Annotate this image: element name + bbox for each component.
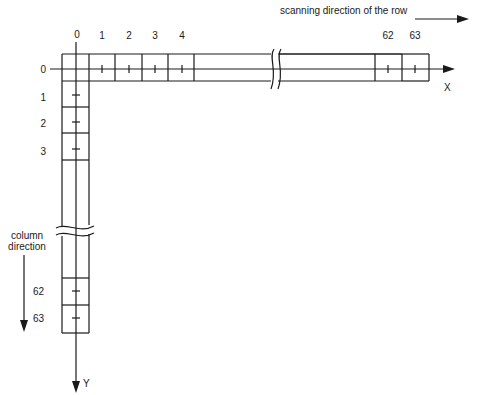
row-label-2: 2 [126,30,132,41]
column-label-62: 62 [33,286,44,297]
column-label-1: 1 [40,92,46,103]
column-direction-label-line1: column [11,230,43,241]
x-axis-label: X [444,82,451,93]
row-strip-right [278,54,429,81]
row-label-62: 62 [382,30,393,41]
y-axis-label: Y [83,378,90,389]
origin-label-left: 0 [40,64,46,75]
row-label-1: 1 [99,30,105,41]
row-label-63: 63 [409,30,420,41]
pixel-grid-diagram [0,0,480,395]
column-label-3: 3 [40,146,46,157]
x-axis-arrowhead-icon [443,65,455,73]
row-label-3: 3 [152,30,158,41]
column-direction-arrowhead-icon [20,320,28,332]
row-label-4: 4 [179,30,185,41]
row-strip-left [62,54,271,81]
y-axis-arrowhead-icon [72,381,80,393]
column-direction-label-line2: direction [8,241,46,252]
scanning-direction-label: scanning direction of the row [280,5,407,16]
column-label-63: 63 [33,313,44,324]
origin-label-top: 0 [74,29,80,40]
scanning-direction-arrowhead-icon [457,15,469,23]
column-break-mark [56,226,94,236]
column-label-2: 2 [40,118,46,129]
